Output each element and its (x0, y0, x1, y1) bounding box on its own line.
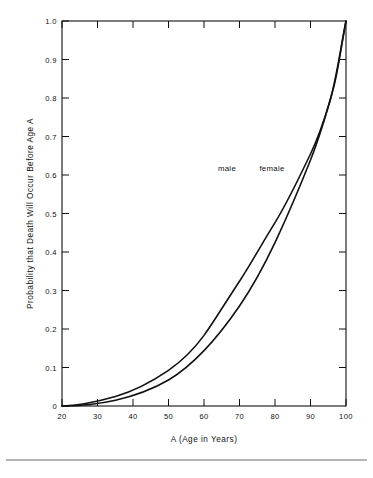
x-tick-label: 70 (235, 412, 244, 421)
x-tick-label: 40 (128, 412, 137, 421)
y-tick-label: 0.7 (45, 133, 57, 142)
y-tick-label: 1.0 (45, 17, 57, 26)
chart-figure: 0 0.1 0.2 0.3 0.4 0.5 0.6 0.7 0.8 0.9 1.… (0, 0, 373, 478)
mortality-probability-chart: 0 0.1 0.2 0.3 0.4 0.5 0.6 0.7 0.8 0.9 1.… (0, 0, 373, 478)
y-tick-label: 0.8 (45, 94, 57, 103)
x-axis-ticks (62, 21, 346, 406)
x-tick-label: 90 (306, 412, 315, 421)
y-tick-label: 0.9 (45, 56, 57, 65)
plot-frame (62, 21, 346, 406)
x-tick-label: 80 (270, 412, 279, 421)
series-label-female: female (259, 164, 284, 173)
x-tick-labels: 20 30 40 50 60 70 80 90 100 (57, 412, 353, 421)
x-axis-title: A (Age in Years) (171, 435, 238, 444)
x-tick-label: 60 (199, 412, 208, 421)
y-axis-ticks (62, 21, 346, 406)
series-label-male: male (218, 164, 236, 173)
curve-female (62, 21, 346, 406)
x-tick-label: 100 (339, 412, 353, 421)
y-tick-label: 0.4 (45, 248, 57, 257)
y-tick-label: 0.5 (45, 210, 57, 219)
y-axis-title: Probability that Death Will Occur Before… (26, 118, 35, 309)
y-tick-label: 0.6 (45, 171, 57, 180)
y-tick-label: 0 (52, 402, 57, 411)
x-tick-label: 30 (93, 412, 102, 421)
x-tick-label: 50 (164, 412, 173, 421)
y-tick-label: 0.1 (45, 364, 57, 373)
y-tick-labels: 0 0.1 0.2 0.3 0.4 0.5 0.6 0.7 0.8 0.9 1.… (45, 17, 57, 411)
y-tick-label: 0.2 (45, 325, 57, 334)
y-tick-label: 0.3 (45, 287, 57, 296)
curve-male (62, 21, 346, 406)
x-tick-label: 20 (57, 412, 66, 421)
